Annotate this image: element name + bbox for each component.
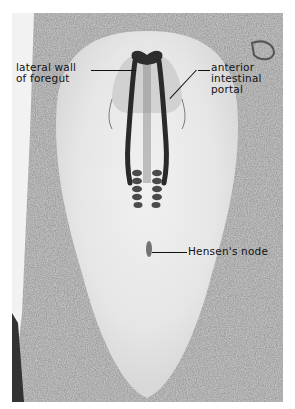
label-line: Hensen's node [188, 246, 268, 257]
label-line: portal [211, 84, 262, 95]
leader-line-hensens-node [152, 252, 187, 253]
leader-line-foregut [91, 70, 136, 71]
label-anterior-intestinal-portal: anterior intestinal portal [211, 62, 262, 95]
label-lateral-wall-of-foregut: lateral wall of foregut [16, 62, 76, 84]
leader-line-portal-h [198, 70, 210, 71]
label-hensens-node: Hensen's node [188, 246, 268, 257]
label-line: of foregut [16, 73, 76, 84]
